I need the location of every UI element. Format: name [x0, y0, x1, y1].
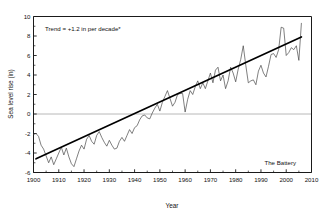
y-tick-label: -4 [25, 149, 31, 156]
y-axis-title: Sea level rise (in) [7, 69, 15, 118]
x-tick-label: 1940 [128, 176, 142, 183]
chart-figure: 1900191019201930194019501960197019801990… [0, 0, 333, 216]
trend-annotation: Trend = +1.2 in per decade* [45, 25, 121, 32]
x-tick-label: 1930 [103, 176, 117, 183]
x-tick-label: 1920 [77, 176, 91, 183]
y-tick-label: -2 [25, 130, 31, 137]
x-tick-label: 1970 [204, 176, 218, 183]
x-tick-label: 1900 [27, 176, 41, 183]
x-tick-label: 2010 [305, 176, 319, 183]
sea-level-rise-line-chart: 1900191019201930194019501960197019801990… [0, 0, 333, 216]
x-tick-label: 1910 [52, 176, 66, 183]
station-annotation: The Battery [265, 159, 297, 166]
x-tick-label: 1980 [229, 176, 243, 183]
x-tick-label: 1960 [178, 176, 192, 183]
chart-background [0, 0, 333, 216]
y-tick-label: -6 [25, 169, 31, 176]
x-axis-title: Year [166, 202, 180, 209]
x-tick-label: 1950 [153, 176, 167, 183]
x-tick-label: 2000 [279, 176, 293, 183]
x-tick-label: 1990 [254, 176, 268, 183]
y-tick-label: 10 [24, 13, 31, 20]
